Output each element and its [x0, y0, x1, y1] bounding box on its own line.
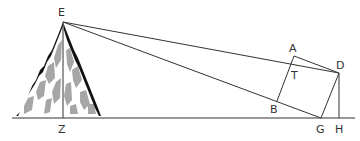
mountain-illustration: [16, 22, 101, 116]
segment-D-G: [321, 73, 339, 118]
label-E: E: [58, 6, 65, 19]
label-B: B: [270, 103, 278, 116]
label-G: G: [316, 123, 325, 136]
segment-E-G: [63, 22, 321, 118]
label-T: T: [290, 69, 298, 82]
point-labels: E Z A T D B G H: [58, 6, 344, 136]
label-H: H: [335, 123, 343, 136]
label-D: D: [336, 59, 344, 72]
segment-A-D: [294, 56, 339, 73]
label-A: A: [289, 42, 297, 55]
segment-E-D: [63, 22, 339, 73]
label-Z: Z: [58, 123, 66, 136]
geometry-diagram: E Z A T D B G H: [0, 0, 360, 141]
